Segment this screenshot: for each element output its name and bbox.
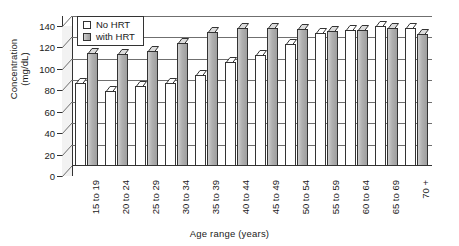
gridline-depth xyxy=(62,102,72,112)
bar-with-hrt xyxy=(327,26,338,166)
legend-label-no-hrt: No HRT xyxy=(96,19,130,31)
x-category-label: 65 to 69 xyxy=(390,180,401,214)
bar-with-hrt xyxy=(297,24,308,166)
x-category-label: 60 to 64 xyxy=(360,180,371,214)
y-axis-title: Concentration (mg/dL) xyxy=(8,14,30,124)
bar-front-face xyxy=(225,62,236,166)
bar-front-face xyxy=(417,34,428,166)
x-category-label: 30 to 34 xyxy=(180,180,191,214)
bar-front-face xyxy=(297,29,308,166)
y-axis-title-line1: Concentration xyxy=(8,14,19,124)
bar-front-face xyxy=(237,28,248,166)
bar-with-hrt xyxy=(207,27,218,166)
bar-no-hrt xyxy=(165,78,176,167)
y-axis-title-line2: (mg/dL) xyxy=(19,14,30,124)
y-tick xyxy=(57,26,62,27)
bar-group xyxy=(252,16,282,166)
y-tick-label: 0 xyxy=(50,171,55,182)
bar-with-hrt xyxy=(147,46,158,166)
x-category-label: 40 to 44 xyxy=(240,180,251,214)
x-category-label: 45 to 49 xyxy=(270,180,281,214)
bar-with-hrt xyxy=(87,48,98,167)
legend-swatch-with-hrt xyxy=(83,33,91,41)
bar-group xyxy=(342,16,372,166)
bar-group xyxy=(222,16,252,166)
x-category-label: 55 to 59 xyxy=(330,180,341,214)
x-category-label: 20 to 24 xyxy=(120,180,131,214)
bar-front-face xyxy=(87,53,98,167)
y-tick-label: 120 xyxy=(39,42,55,53)
bar-with-hrt xyxy=(357,25,368,166)
bar-no-hrt xyxy=(135,81,146,166)
x-axis-title: Age range (years) xyxy=(0,228,459,239)
bar-no-hrt xyxy=(105,86,116,166)
bar-group xyxy=(402,16,432,166)
bar-front-face xyxy=(315,33,326,166)
legend: No HRT with HRT xyxy=(77,16,144,46)
bar-front-face xyxy=(375,26,386,166)
gridline-depth xyxy=(62,80,72,90)
bar-no-hrt xyxy=(285,39,296,166)
bar-front-face xyxy=(267,28,278,166)
bar-no-hrt xyxy=(375,21,386,166)
bar-no-hrt xyxy=(405,23,416,166)
y-tick-label: 140 xyxy=(39,21,55,32)
y-tick-label: 60 xyxy=(44,106,55,117)
gridline-depth xyxy=(62,37,72,47)
legend-item-with-hrt: with HRT xyxy=(83,31,135,43)
bar-front-face xyxy=(387,28,398,166)
gridline-depth xyxy=(62,145,72,155)
y-tick-label: 80 xyxy=(44,85,55,96)
y-tick-label: 20 xyxy=(44,149,55,160)
bar-front-face xyxy=(147,51,158,166)
bar-with-hrt xyxy=(237,23,248,166)
bar-with-hrt xyxy=(387,23,398,166)
bar-no-hrt xyxy=(315,28,326,166)
bar-group xyxy=(372,16,402,166)
bar-front-face xyxy=(165,83,176,167)
y-tick xyxy=(57,69,62,70)
legend-swatch-no-hrt xyxy=(83,21,91,29)
legend-label-with-hrt: with HRT xyxy=(96,31,135,43)
bar-with-hrt xyxy=(117,49,128,166)
bar-with-hrt xyxy=(417,29,428,166)
bar-no-hrt xyxy=(75,78,86,167)
bar-chart: Concentration (mg/dL) 020406080100120140… xyxy=(0,0,459,246)
gridline-depth xyxy=(62,16,72,26)
y-tick-label: 100 xyxy=(39,63,55,74)
gridline-depth xyxy=(62,166,72,176)
bar-group xyxy=(282,16,312,166)
x-category-label: 50 to 54 xyxy=(300,180,311,214)
bar-with-hrt xyxy=(177,38,188,166)
bar-front-face xyxy=(195,75,206,166)
bar-front-face xyxy=(75,83,86,167)
bar-front-face xyxy=(135,86,146,166)
bar-with-hrt xyxy=(267,23,278,166)
x-category-label: 25 to 29 xyxy=(150,180,161,214)
bar-group xyxy=(162,16,192,166)
gridline-depth xyxy=(62,59,72,69)
bar-front-face xyxy=(327,31,338,166)
bar-front-face xyxy=(345,30,356,166)
bar-group xyxy=(192,16,222,166)
y-tick xyxy=(57,90,62,91)
bar-no-hrt xyxy=(225,57,236,166)
x-category-label: 35 to 39 xyxy=(210,180,221,214)
bar-front-face xyxy=(117,54,128,166)
bar-front-face xyxy=(285,44,296,166)
bar-no-hrt xyxy=(195,70,206,166)
bar-group xyxy=(312,16,342,166)
legend-item-no-hrt: No HRT xyxy=(83,19,135,31)
x-category-label: 15 to 19 xyxy=(90,180,101,214)
gridline-depth xyxy=(62,123,72,133)
bar-no-hrt xyxy=(345,25,356,166)
bar-front-face xyxy=(255,55,266,166)
bar-front-face xyxy=(105,91,116,166)
x-axis-category-labels: 15 to 1920 to 2425 to 2930 to 3435 to 39… xyxy=(62,176,432,228)
y-tick xyxy=(57,47,62,48)
bar-front-face xyxy=(177,43,188,166)
bar-front-face xyxy=(357,30,368,166)
y-tick xyxy=(57,112,62,113)
y-tick-label: 40 xyxy=(44,128,55,139)
y-tick xyxy=(57,155,62,156)
